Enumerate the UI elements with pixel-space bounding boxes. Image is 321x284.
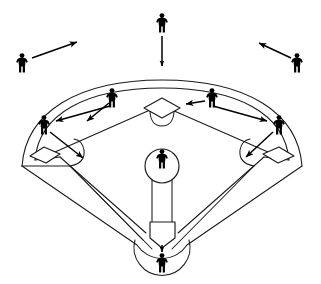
third-base [30, 147, 60, 163]
second-base [144, 98, 180, 118]
player-catcher [156, 253, 168, 272]
first-base [263, 147, 294, 163]
movement-arrows-group [32, 36, 291, 252]
left-fielder-movement-arrow [32, 42, 77, 58]
player-center-fielder [156, 13, 168, 32]
second-baseman-movement-arrow [186, 101, 205, 104]
shortstop-range-arrow [56, 106, 110, 121]
second-baseman-range-arrow [213, 106, 267, 121]
player-second-baseman [206, 88, 218, 107]
home-plate [150, 222, 175, 248]
player-left-fielder [16, 53, 28, 72]
baseball-field-diagram: Baseball Defensive Positioning Diagram O… [0, 0, 321, 284]
field-svg-canvas [0, 0, 321, 284]
player-right-fielder [291, 53, 303, 72]
right-fielder-movement-arrow [259, 43, 291, 58]
